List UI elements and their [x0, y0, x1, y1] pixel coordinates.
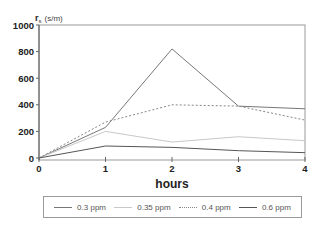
y-axis-label: rs(s/m) — [35, 13, 63, 24]
series-0-6-ppm — [39, 146, 305, 158]
line-swatch-icon — [114, 207, 132, 208]
legend-label: 0.3 ppm — [77, 203, 106, 212]
x-tick-label: 3 — [236, 163, 241, 174]
legend-item-0-6-ppm: 0.6 ppm — [239, 203, 291, 212]
y-axis: 02004006008001000 — [13, 20, 39, 164]
line-swatch-icon — [54, 207, 72, 208]
x-tick-label: 2 — [169, 163, 174, 174]
line-swatch-icon — [239, 207, 257, 208]
x-axis-label: hours — [155, 177, 189, 191]
y-tick-label: 600 — [18, 73, 34, 84]
series-0-35-ppm — [39, 131, 305, 158]
legend-item-0-35-ppm: 0.35 ppm — [114, 203, 170, 212]
legend-item-0-4-ppm: 0.4 ppm — [179, 203, 231, 212]
x-tick-label: 1 — [103, 163, 109, 174]
legend: 0.3 ppm 0.35 ppm 0.4 ppm 0.6 ppm — [43, 196, 302, 218]
series-0-4-ppm — [39, 105, 305, 158]
data-series — [39, 49, 305, 158]
legend-label: 0.6 ppm — [262, 203, 291, 212]
legend-label: 0.35 ppm — [137, 203, 170, 212]
y-tick-label: 1000 — [13, 20, 34, 31]
y-tick-label: 800 — [18, 46, 34, 57]
y-tick-label: 400 — [18, 99, 34, 110]
x-tick-label: 4 — [302, 163, 308, 174]
legend-item-0-3-ppm: 0.3 ppm — [54, 203, 106, 212]
legend-label: 0.4 ppm — [202, 203, 231, 212]
y-tick-label: 200 — [18, 126, 34, 137]
x-tick-label: 0 — [36, 163, 41, 174]
y-tick-label: 0 — [29, 153, 34, 164]
dashed-line-swatch-icon — [179, 207, 197, 208]
